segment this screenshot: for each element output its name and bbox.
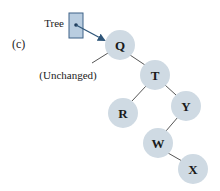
node-x: X <box>178 154 208 184</box>
node-label: Q <box>115 38 125 53</box>
node-label: Y <box>181 99 191 114</box>
node-t: T <box>140 60 170 90</box>
edge-w-x <box>168 153 182 161</box>
unchanged-annotation: (Unchanged) <box>39 69 97 82</box>
edge-t-r <box>132 86 146 101</box>
node-q: Q <box>105 30 135 60</box>
node-r: R <box>108 98 138 128</box>
node-label: T <box>151 68 160 83</box>
panel-label: (c) <box>12 37 25 51</box>
node-w: W <box>143 128 173 158</box>
edge-unchanged-pointer <box>92 53 108 63</box>
node-label: X <box>188 162 198 177</box>
edge-t-y <box>165 85 176 95</box>
node-label: W <box>152 136 165 151</box>
edge-y-w <box>166 117 178 131</box>
tree-pointer-label: Tree <box>44 17 64 29</box>
node-label: R <box>118 106 128 121</box>
node-y: Y <box>171 91 201 121</box>
edge-q-t <box>130 55 145 65</box>
tree-diagram: Q T R Y W X (c) Tree (Unchanged) <box>0 0 220 191</box>
